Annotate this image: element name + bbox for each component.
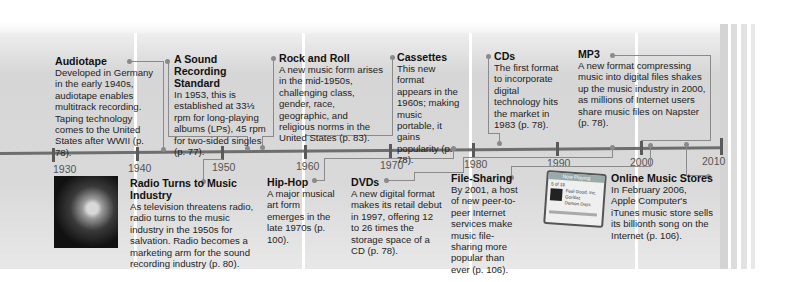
connector-line bbox=[511, 166, 651, 167]
event-title: Hip-Hop bbox=[267, 176, 339, 188]
year-label: 1940 bbox=[128, 162, 151, 174]
event-body: Developed in Germany in the early 1940s,… bbox=[55, 67, 153, 158]
decorative-stripe bbox=[741, 24, 747, 269]
connector-line bbox=[163, 61, 164, 149]
connector-line bbox=[168, 62, 169, 136]
connector-line bbox=[273, 58, 274, 136]
connector-line bbox=[463, 157, 464, 172]
ipod-screen-image: Now Playing 5 of 15 Feel Good, Inc. Gori… bbox=[543, 170, 607, 228]
connector-dot bbox=[161, 147, 166, 152]
event-title: MP3 bbox=[578, 48, 706, 60]
event-title: A Sound Recording Standard bbox=[174, 53, 269, 89]
connector-line bbox=[650, 145, 651, 166]
event-body: A new music form arises in the mid-1950s… bbox=[279, 64, 383, 143]
event-cassettes: Cassettes This new format appears in the… bbox=[397, 51, 461, 166]
tick-2000 bbox=[640, 141, 643, 155]
album-art-icon bbox=[550, 188, 563, 201]
event-hip-hop: Hip-Hop A major musical art form emerges… bbox=[267, 176, 339, 245]
year-label: 1980 bbox=[464, 158, 487, 170]
event-title: DVDs bbox=[351, 176, 443, 188]
year-label: 1990 bbox=[547, 157, 570, 169]
event-rock-and-roll: Rock and Roll A new music form arises in… bbox=[279, 52, 384, 144]
year-label: 2010 bbox=[702, 155, 725, 167]
year-label: 1930 bbox=[53, 163, 76, 175]
connector-line bbox=[463, 157, 613, 158]
tick-1980 bbox=[472, 143, 475, 157]
decorative-stripe bbox=[731, 24, 737, 269]
event-title: CDs bbox=[494, 50, 562, 62]
ipod-track-info: Feel Good, Inc. Gorillaz Demon Days bbox=[564, 188, 596, 208]
singer-photo bbox=[54, 176, 118, 248]
tick-1960 bbox=[304, 145, 307, 159]
event-body: By 2001, a host of new peer-to-peer Inte… bbox=[451, 184, 518, 275]
event-body: As television threatens radio, radio tur… bbox=[130, 201, 253, 269]
event-cds: CDs The first format to incorporate digi… bbox=[494, 50, 562, 130]
year-label: 1950 bbox=[212, 161, 235, 173]
tick-1990 bbox=[556, 142, 559, 156]
event-audiotape: Audiotape Developed in Germany in the ea… bbox=[55, 55, 160, 158]
event-body: In February 2006, Apple Computer's iTune… bbox=[611, 184, 713, 241]
tick-1970 bbox=[389, 144, 392, 158]
connector-line bbox=[488, 56, 489, 134]
connector-line bbox=[392, 57, 393, 135]
event-body: In 1953, this is established at 33⅓ rpm … bbox=[174, 89, 266, 157]
event-sound-recording-standard: A Sound Recording Standard In 1953, this… bbox=[174, 53, 269, 157]
connector-dot bbox=[648, 143, 653, 148]
event-body: A new format compressing music into digi… bbox=[578, 60, 705, 128]
connector-dot bbox=[610, 145, 615, 150]
event-title: Rock and Roll bbox=[279, 52, 384, 64]
event-body: A major musical art form emerges in the … bbox=[267, 188, 335, 245]
event-body: This new format appears in the 1960s; ma… bbox=[397, 63, 459, 165]
ipod-track-count: 5 of 15 bbox=[551, 181, 565, 187]
event-mp3: MP3 A new format compressing music into … bbox=[578, 48, 706, 128]
event-title: Cassettes bbox=[397, 51, 461, 63]
event-title: Audiotape bbox=[55, 55, 160, 67]
connector-dot bbox=[497, 141, 502, 146]
connector-dot bbox=[684, 142, 689, 147]
year-label: 1960 bbox=[296, 160, 319, 172]
connector-line bbox=[203, 159, 223, 160]
event-file-sharing: File-Sharing By 2001, a host of new peer… bbox=[451, 172, 525, 275]
event-body: The first format to incorporate digital … bbox=[494, 62, 559, 130]
connector-line bbox=[641, 140, 711, 141]
decorative-stripe bbox=[751, 24, 755, 269]
event-online-music-stores: Online Music Stores In February 2006, Ap… bbox=[611, 172, 713, 241]
connector-line bbox=[686, 144, 687, 174]
event-body: A new digital format makes its retail de… bbox=[351, 188, 442, 256]
event-dvds: DVDs A new digital format makes its reta… bbox=[351, 176, 443, 256]
event-title: Radio Turns to Music Industry bbox=[130, 177, 258, 201]
event-title: File-Sharing bbox=[451, 172, 525, 184]
ipod-progress-bar bbox=[549, 210, 597, 216]
event-title: Online Music Stores bbox=[611, 172, 713, 184]
tick-2010 bbox=[720, 138, 723, 155]
connector-line bbox=[710, 55, 711, 140]
ipod-album: Demon Days bbox=[564, 200, 595, 208]
event-radio-turns-to-music-industry: Radio Turns to Music Industry As televis… bbox=[130, 177, 258, 269]
